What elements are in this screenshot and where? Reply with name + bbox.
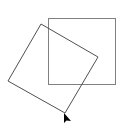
- rotated-square-shape[interactable]: [8, 24, 98, 113]
- square-shape[interactable]: [49, 19, 116, 85]
- mouse-cursor-icon: [64, 113, 71, 123]
- drawing-canvas[interactable]: [0, 0, 121, 140]
